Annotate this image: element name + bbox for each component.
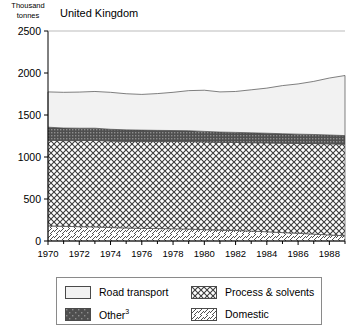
x-tick-label: 1972 — [69, 248, 90, 259]
legend-label-process-solvents: Process & solvents — [225, 286, 314, 298]
legend-label-other: Other3 — [99, 308, 129, 321]
y-tick-label: 2500 — [18, 25, 42, 37]
y-tick-label: 500 — [23, 193, 41, 205]
x-tick-label: 1984 — [256, 248, 277, 259]
crosshatch-swatch — [191, 286, 217, 299]
chart-root: Thousand tonnes United Kingdom 050 — [0, 0, 350, 335]
y-axis-ticks: 05001000150020002500 — [18, 25, 48, 247]
x-tick-label: 1982 — [225, 248, 246, 259]
y-tick-label: 1500 — [18, 109, 42, 121]
legend-label-other-text: Other — [99, 308, 125, 320]
dark-dotted-swatch — [65, 308, 91, 321]
x-tick-label: 1988 — [319, 248, 340, 259]
x-axis-ticks: 1970197219741976197819801982198419861988 — [37, 241, 345, 259]
legend-label-domestic: Domestic — [225, 308, 269, 320]
legend-item-process-solvents: Process & solvents — [191, 281, 331, 303]
y-tick-label: 1000 — [18, 151, 42, 163]
legend-item-domestic: Domestic — [191, 303, 331, 325]
area-series-process-solvents — [48, 140, 345, 236]
legend: Road transport Process & solvents Other3… — [56, 277, 322, 325]
area-layers — [48, 76, 345, 241]
plot-area: 05001000150020002500 1970197219741976197… — [0, 0, 350, 275]
x-tick-label: 1980 — [194, 248, 215, 259]
diagonal-hatch-swatch — [191, 308, 217, 321]
x-tick-label: 1986 — [288, 248, 309, 259]
legend-item-other: Other3 — [65, 303, 191, 325]
legend-footnote-marker: 3 — [125, 308, 129, 315]
y-tick-label: 2000 — [18, 67, 42, 79]
stacked-area-svg: 05001000150020002500 1970197219741976197… — [0, 0, 350, 275]
area-series-road-transport — [48, 76, 345, 136]
x-tick-label: 1970 — [37, 248, 58, 259]
light-solid-swatch — [65, 286, 91, 299]
legend-item-road-transport: Road transport — [65, 281, 191, 303]
x-tick-label: 1976 — [131, 248, 152, 259]
x-tick-label: 1978 — [162, 248, 183, 259]
legend-label-road-transport: Road transport — [99, 286, 168, 298]
x-tick-label: 1974 — [100, 248, 121, 259]
y-tick-label: 0 — [35, 235, 41, 247]
